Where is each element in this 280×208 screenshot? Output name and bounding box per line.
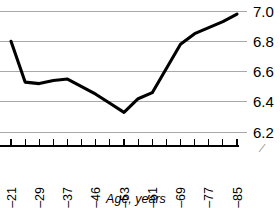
line-chart: 6.26.46.66.87.0 18–2126–2934–3742–4650–5… [0,0,280,208]
y-axis-tick-label: 6.6 [253,63,274,80]
gridlines [0,11,247,132]
y-axis-tick-label: 7.0 [253,3,274,20]
y-axis-tick-label: 6.8 [253,33,274,50]
x-axis-tick-label: 66–69 [174,187,188,208]
x-axis-tick-label: 26–29 [33,187,47,208]
x-axis-tick-label: 18–21 [5,187,19,208]
chart-canvas: 6.26.46.66.87.0 18–2126–2934–3742–4650–5… [0,0,280,208]
y-axis-tick-label: 6.2 [253,124,274,141]
x-axis-tick-marks [11,139,237,146]
x-axis-tick-label: 82–85 [231,187,245,208]
y-axis-tick-labels: 6.26.46.66.87.0 [253,3,274,141]
stray-mark-glyph: ⁄ [258,140,266,155]
x-axis-tick-label: 74–77 [202,187,216,208]
x-axis-title: Age, years [105,192,166,206]
y-axis-tick-label: 6.4 [253,93,274,110]
data-series-line [11,14,237,112]
x-axis-tick-label: 42–46 [89,187,103,208]
series-line [11,14,237,112]
x-axis-tick-label: 34–37 [61,187,75,208]
